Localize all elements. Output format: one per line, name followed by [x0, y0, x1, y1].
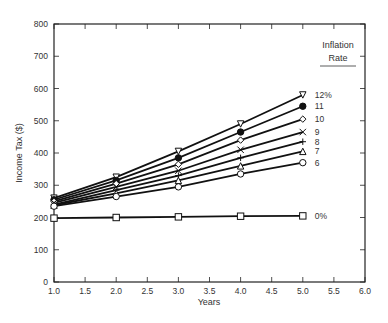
x-tick-label: 4.5 [266, 286, 278, 296]
open-circle-marker-icon [175, 184, 181, 190]
triangle-down-marker-icon [300, 92, 306, 98]
open-circle-marker-icon [300, 159, 306, 165]
x-tick-label: 1.5 [79, 286, 91, 296]
series-labels: 12%111098760% [315, 90, 332, 221]
series-label: 8 [315, 137, 320, 147]
x-tick-label: 3.0 [172, 286, 184, 296]
filled-circle-marker-icon [300, 103, 306, 109]
y-tick-label: 500 [34, 116, 48, 126]
diamond-marker-icon [237, 137, 243, 143]
y-axis-label: Income Tax ($) [14, 123, 24, 182]
x-tick-label: 2.0 [110, 286, 122, 296]
open-circle-marker-icon [51, 203, 57, 209]
x-tick-label: 4.0 [235, 286, 247, 296]
income-tax-chart: 1.01.52.02.53.03.54.04.55.05.56.00100200… [0, 0, 388, 323]
open-circle-marker-icon [237, 171, 243, 177]
x-axis-label: Years [198, 297, 221, 307]
series-label: 10 [315, 114, 325, 124]
legend-title-line2: Rate [328, 53, 347, 63]
y-tick-label: 600 [34, 84, 48, 94]
triangle-down-marker-icon [237, 121, 243, 127]
x-tick-label: 5.5 [328, 286, 340, 296]
diamond-marker-icon [175, 161, 181, 167]
y-tick-label: 800 [34, 19, 48, 29]
series-label: 9 [315, 127, 320, 137]
square-marker-icon [237, 213, 243, 219]
legend-title: Inflation Rate [320, 40, 356, 66]
series-label: 12% [315, 90, 332, 100]
y-tick-label: 300 [34, 180, 48, 190]
x-tick-label: 1.0 [48, 286, 60, 296]
y-tick-label: 100 [34, 245, 48, 255]
legend-title-line1: Inflation [322, 40, 354, 50]
filled-circle-marker-icon [237, 129, 243, 135]
square-marker-icon [175, 214, 181, 220]
square-marker-icon [300, 213, 306, 219]
filled-circle-marker-icon [175, 155, 181, 161]
y-tick-label: 400 [34, 148, 48, 158]
x-tick-label: 6.0 [359, 286, 371, 296]
series-label: 7 [315, 146, 320, 156]
x-tick-label: 3.5 [204, 286, 216, 296]
open-circle-marker-icon [113, 193, 119, 199]
x-tick-label: 5.0 [297, 286, 309, 296]
axes: 1.01.52.02.53.03.54.04.55.05.56.00100200… [34, 19, 371, 296]
y-tick-label: 200 [34, 213, 48, 223]
plus-marker-icon [237, 155, 243, 161]
series-label: 0% [315, 211, 328, 221]
diamond-marker-icon [300, 116, 306, 122]
y-tick-label: 700 [34, 51, 48, 61]
series-label: 11 [315, 101, 324, 111]
x-tick-label: 2.5 [141, 286, 153, 296]
series-label: 6 [315, 158, 320, 168]
square-marker-icon [113, 214, 119, 220]
square-marker-icon [51, 215, 57, 221]
plus-marker-icon [300, 139, 306, 145]
y-tick-label: 0 [43, 277, 48, 287]
